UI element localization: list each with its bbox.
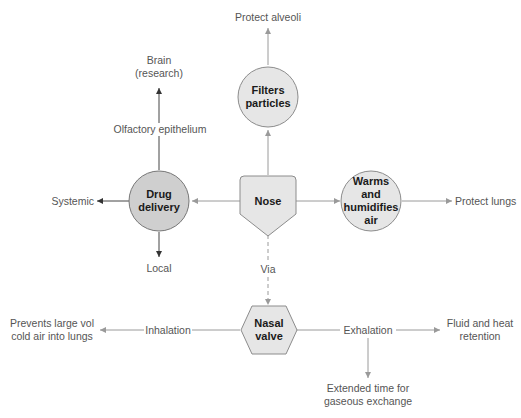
label-via: Via (258, 263, 278, 276)
label-extended-line2: gaseous exchange (318, 395, 418, 408)
label-inhalation: Inhalation (144, 324, 192, 337)
label-brain-line1: Brain (124, 54, 194, 67)
warms-label: Warms and humidifies air (336, 174, 406, 228)
valve-line2: valve (255, 330, 283, 343)
filters-line2: particles (245, 97, 290, 110)
valve-label: Nasal valve (241, 315, 297, 345)
warms-line3: humidifies (343, 201, 398, 214)
drug-line2: delivery (138, 201, 180, 214)
warms-line1: Warms (353, 175, 389, 188)
filters-line1: Filters (251, 84, 284, 97)
diagram-canvas (0, 0, 521, 418)
label-prevents: Prevents large vol cold air into lungs (6, 317, 98, 343)
label-prevents-line2: cold air into lungs (6, 330, 98, 343)
nose-label: Nose (240, 194, 296, 208)
warms-line4: air (364, 214, 377, 227)
drug-label: Drug delivery (129, 186, 189, 216)
label-systemic: Systemic (44, 195, 94, 208)
filters-label: Filters particles (238, 82, 298, 112)
warms-line2: and (361, 188, 381, 201)
label-brain: Brain (research) (124, 54, 194, 80)
label-extended-time: Extended time for gaseous exchange (318, 382, 418, 408)
valve-line1: Nasal (254, 317, 283, 330)
drug-line1: Drug (146, 188, 172, 201)
label-prevents-line1: Prevents large vol (6, 317, 98, 330)
label-fluid-heat: Fluid and heat retention (440, 317, 520, 343)
label-local: Local (139, 262, 179, 275)
label-fluid-line1: Fluid and heat (440, 317, 520, 330)
label-fluid-line2: retention (440, 330, 520, 343)
label-olfactory-epithelium: Olfactory epithelium (108, 123, 212, 136)
label-protect-lungs: Protect lungs (455, 195, 521, 208)
label-exhalation: Exhalation (340, 324, 396, 337)
label-protect-alveoli: Protect alveoli (218, 11, 318, 24)
label-brain-line2: (research) (124, 67, 194, 80)
label-extended-line1: Extended time for (318, 382, 418, 395)
